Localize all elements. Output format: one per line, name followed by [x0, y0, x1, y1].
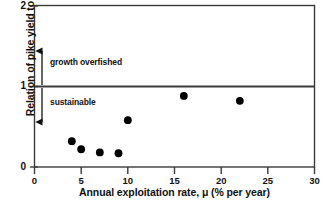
x-tick-label-5: 5	[70, 175, 92, 186]
chart-figure: Relation of pike yield to MSY 2 1 0 0 5 …	[0, 0, 324, 207]
x-tick-label-0: 0	[24, 175, 46, 186]
data-point	[180, 92, 188, 100]
data-point	[96, 149, 104, 157]
y-tick-label-2: 2	[10, 0, 26, 11]
data-point	[115, 149, 123, 157]
data-point	[124, 116, 132, 124]
data-point	[236, 97, 244, 105]
x-tick-label-20: 20	[210, 175, 232, 186]
x-axis-label: Annual exploitation rate, μ (% per year)	[34, 186, 315, 198]
annotation-sustainable: sustainable	[50, 97, 96, 107]
data-point	[77, 145, 85, 153]
y-tick-label-1: 1	[10, 80, 26, 91]
x-tick-label-15: 15	[164, 175, 186, 186]
x-tick-label-10: 10	[117, 175, 139, 186]
x-axis-ticks	[35, 167, 315, 174]
x-tick-label-30: 30	[304, 175, 324, 186]
x-tick-label-25: 25	[257, 175, 279, 186]
annotation-growth-overfished: growth overfished	[50, 57, 122, 67]
data-point	[68, 137, 76, 145]
y-axis-label: Relation of pike yield to MSY	[24, 0, 36, 132]
y-tick-label-0: 0	[10, 161, 26, 172]
